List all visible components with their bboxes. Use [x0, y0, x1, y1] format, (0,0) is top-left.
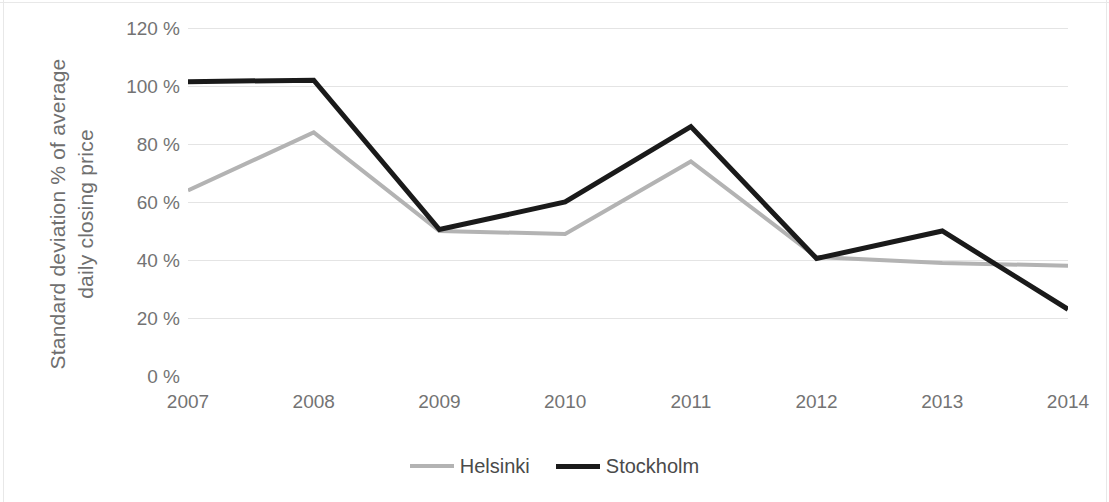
y-tick-label: 60 %	[96, 193, 180, 212]
y-tick-label: 20 %	[96, 309, 180, 328]
chart-legend: HelsinkiStockholm	[0, 455, 1109, 477]
x-tick-label: 2013	[892, 390, 992, 414]
x-tick-label: 2014	[1018, 390, 1109, 414]
x-axis-tick-labels: 20072008200920102011201220132014	[188, 390, 1068, 420]
y-axis-title-line1: Standard deviation % of average	[44, 59, 72, 370]
legend-entry-stockholm[interactable]: Stockholm	[556, 455, 699, 477]
page-edge-right	[1106, 0, 1107, 502]
series-line-helsinki	[188, 132, 1068, 265]
legend-swatch-stockholm	[556, 464, 600, 469]
x-tick-label: 2011	[641, 390, 741, 414]
legend-swatch-helsinki	[410, 464, 454, 468]
plot-area	[188, 28, 1068, 376]
page-edge-left	[3, 0, 4, 502]
x-tick-label: 2009	[389, 390, 489, 414]
series-lines	[188, 28, 1068, 376]
line-chart: Standard deviation % of average daily cl…	[0, 0, 1109, 502]
legend-label-stockholm: Stockholm	[606, 455, 699, 477]
legend-label-helsinki: Helsinki	[460, 455, 530, 477]
y-axis-tick-labels: 0 %20 %40 %60 %80 %100 %120 %	[96, 0, 180, 502]
y-tick-label: 40 %	[96, 251, 180, 270]
series-line-stockholm	[188, 80, 1068, 309]
y-tick-label: 80 %	[96, 135, 180, 154]
x-tick-label: 2007	[138, 390, 238, 414]
legend-entry-helsinki[interactable]: Helsinki	[410, 455, 530, 477]
x-tick-label: 2010	[515, 390, 615, 414]
y-tick-label: 0 %	[96, 367, 180, 386]
x-tick-label: 2008	[264, 390, 364, 414]
y-axis-title: Standard deviation % of average daily cl…	[44, 34, 100, 394]
x-tick-label: 2012	[767, 390, 867, 414]
y-tick-label: 120 %	[96, 19, 180, 38]
y-tick-label: 100 %	[96, 77, 180, 96]
